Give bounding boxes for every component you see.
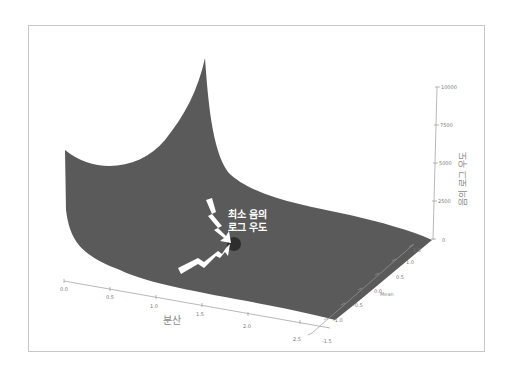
y-tick: 0.5 (396, 274, 404, 280)
x-tick: 1.0 (150, 303, 158, 309)
x-axis-label: 분산 (163, 315, 181, 326)
z-tick: 2500 (438, 198, 451, 204)
x-tick: 0.5 (106, 294, 114, 300)
y-tick: -0.5 (353, 302, 363, 308)
annotation-line-1: 최소 음의 (228, 208, 267, 220)
z-axis: 10000 7500 5000 2500 0 음의 로그 우도 (431, 84, 468, 243)
y-tick: 1.5 (413, 247, 421, 253)
x-tick: 2.0 (243, 323, 251, 329)
z-tick: 10000 (441, 84, 457, 90)
y-axis-label: Mean (380, 291, 394, 297)
y-tick: -1.0 (333, 317, 343, 323)
x-tick: 1.5 (196, 311, 204, 317)
z-tick: 7500 (440, 122, 453, 128)
z-axis-label: 음의 로그 우도 (458, 152, 468, 206)
likelihood-surface (65, 58, 432, 320)
x-tick: 2.5 (293, 336, 301, 342)
z-tick: 0 (442, 237, 445, 243)
surface-plot: 0.0 0.5 1.0 1.5 2.0 2.5 분산 -1.5 -1.0 -0.… (0, 0, 512, 374)
z-tick: 5000 (439, 160, 452, 166)
y-tick: -1.5 (322, 338, 332, 344)
y-tick: 1.0 (406, 259, 414, 265)
x-tick: 0.0 (60, 286, 68, 292)
annotation-line-2: 로그 우도 (228, 222, 267, 233)
